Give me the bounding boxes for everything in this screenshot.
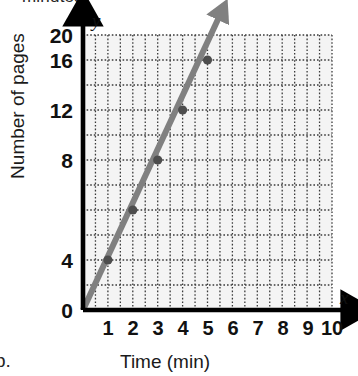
y-tick-label-8: 8	[33, 150, 73, 171]
x-tick-label-2: 2	[121, 318, 145, 338]
y-axis-variable-label: y	[92, 10, 100, 32]
chart-figure: 0 4 8 12 16 20 1 2 3 4 5 6 7 8 9 10 y x …	[0, 0, 358, 376]
data-point	[103, 255, 112, 264]
x-tick-label-1: 1	[96, 318, 120, 338]
x-tick-label-3: 3	[146, 318, 170, 338]
x-tick-label-5: 5	[196, 318, 220, 338]
problem-letter-label: b.	[0, 350, 11, 372]
x-tick-label-9: 9	[296, 318, 320, 338]
data-point	[178, 105, 187, 114]
y-tick-label-0: 0	[33, 300, 73, 321]
y-tick-label-4: 4	[33, 250, 73, 271]
x-tick-label-4: 4	[171, 318, 195, 338]
y-tick-label-16: 16	[33, 50, 73, 71]
x-tick-label-10: 10	[320, 318, 344, 338]
x-axis-title: Time (min)	[120, 351, 210, 373]
y-tick-label-20: 20	[33, 25, 73, 46]
data-point	[203, 55, 212, 64]
x-tick-label-8: 8	[271, 318, 295, 338]
x-axis-variable-label: x	[340, 287, 348, 309]
x-tick-label-7: 7	[246, 318, 270, 338]
data-point	[153, 155, 162, 164]
data-point	[128, 205, 137, 214]
x-tick-label-6: 6	[221, 318, 245, 338]
y-tick-label-12: 12	[33, 100, 73, 121]
y-axis-title: Number of pages	[7, 6, 29, 206]
